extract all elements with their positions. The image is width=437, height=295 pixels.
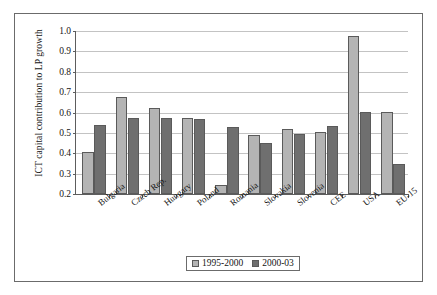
legend-label: 1995-2000 [202,258,243,268]
y-tick-label: 1.0 [59,26,71,36]
bar [294,134,306,195]
y-tick-label: 0.8 [59,67,71,77]
legend-swatch-icon [192,260,199,267]
bar [116,97,128,194]
y-tick-mark [73,51,76,52]
bar [260,143,272,194]
y-tick-mark [73,174,76,175]
y-tick-mark [73,31,76,32]
y-tick-mark [73,113,76,114]
legend-swatch-icon [252,260,259,267]
y-axis-title: ICT capital contribution to LP growth [34,8,44,198]
y-tick-mark [73,153,76,154]
plot-area: 1.00.90.80.70.60.50.40.30.2 [75,31,408,195]
y-tick-mark [73,72,76,73]
y-tick-mark [73,92,76,93]
bar [360,112,372,194]
y-tick-label: 0.3 [59,169,71,179]
bar [128,118,140,194]
y-tick-mark [73,194,76,195]
bar [94,125,106,194]
legend-label: 2000-03 [262,258,294,268]
y-tick-mark [73,133,76,134]
y-tick-label: 0.2 [59,189,71,199]
legend-item: 2000-03 [252,258,294,268]
y-tick-label: 0.7 [59,87,71,97]
y-tick-label: 0.5 [59,128,71,138]
legend-item: 1995-2000 [192,258,243,268]
bar [227,127,239,194]
gridline [76,31,408,32]
chart-figure: ICT capital contribution to LP growth 1.… [0,0,437,295]
bar [393,164,405,194]
chart-legend: 1995-20002000-03 [186,256,300,271]
bar [381,112,393,194]
bar [194,119,206,194]
y-tick-label: 0.6 [59,108,71,118]
bar [348,36,360,194]
y-tick-label: 0.4 [59,148,71,158]
bar [82,152,94,194]
y-tick-label: 0.9 [59,46,71,56]
bar [327,126,339,194]
